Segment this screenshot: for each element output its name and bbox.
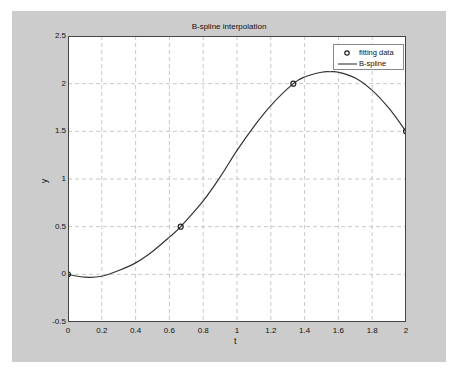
x-tick-label: 1.6 xyxy=(333,326,344,335)
y-tick-label: 2.5 xyxy=(55,31,66,40)
line-swatch-icon xyxy=(336,58,358,70)
y-tick-label: 0.5 xyxy=(55,222,66,231)
legend-label: B-spline xyxy=(359,59,386,68)
chart-title: B-spline interpolation xyxy=(0,22,458,31)
y-tick-label: 1 xyxy=(62,174,66,183)
legend-label: fitting data xyxy=(359,48,394,57)
y-tick-label: -0.5 xyxy=(52,317,66,326)
plot-area xyxy=(68,36,406,322)
x-tick-label: 0.8 xyxy=(198,326,209,335)
plot-svg xyxy=(68,36,406,322)
x-tick-label: 1.4 xyxy=(299,326,310,335)
x-tick-label: 1.2 xyxy=(265,326,276,335)
y-tick-label: 1.5 xyxy=(55,126,66,135)
x-tick-label: 0.6 xyxy=(164,326,175,335)
x-tick-label: 2 xyxy=(404,326,408,335)
y-tick-label: 0 xyxy=(62,269,66,278)
y-axis-label: y xyxy=(39,179,49,184)
legend-item-b-spline: B-spline xyxy=(334,58,403,70)
x-tick-label: 0.4 xyxy=(130,326,141,335)
x-tick-label: 0 xyxy=(66,326,70,335)
x-axis-label: t xyxy=(234,336,237,346)
y-tick-label: 2 xyxy=(62,79,66,88)
x-tick-label: 1 xyxy=(235,326,239,335)
legend: fitting data B-spline xyxy=(333,44,404,70)
x-tick-label: 1.8 xyxy=(367,326,378,335)
x-tick-label: 0.2 xyxy=(96,326,107,335)
